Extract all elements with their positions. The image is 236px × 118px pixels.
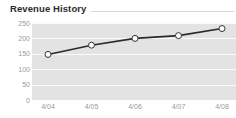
- x-axis-tick-label: 4/08: [215, 103, 229, 110]
- chart-canvas: 050100150200250 4/044/054/064/074/08: [0, 18, 236, 118]
- header-divider: [91, 11, 234, 12]
- chart-header: Revenue History: [0, 0, 236, 18]
- y-axis-tick-label: 100: [0, 66, 30, 73]
- data-point-marker[interactable]: [176, 33, 182, 39]
- y-axis-tick-label: 50: [0, 81, 30, 88]
- data-point-marker[interactable]: [89, 42, 95, 48]
- page-title: Revenue History: [0, 4, 86, 14]
- revenue-line-series: [32, 23, 236, 100]
- y-axis-tick-label: 200: [0, 35, 30, 42]
- data-point-marker[interactable]: [132, 35, 138, 41]
- data-point-marker[interactable]: [45, 51, 51, 57]
- y-axis-tick-label: 150: [0, 50, 30, 57]
- y-axis-tick-label: 250: [0, 20, 30, 27]
- plot-area: [32, 23, 236, 100]
- revenue-history-widget: Revenue History 050100150200250 4/044/05…: [0, 0, 236, 118]
- x-axis-tick-label: 4/06: [128, 103, 142, 110]
- x-axis: 4/044/054/064/074/08: [32, 103, 236, 117]
- x-axis-tick-label: 4/04: [41, 103, 55, 110]
- y-axis: 050100150200250: [0, 23, 30, 100]
- y-axis-tick-label: 0: [0, 97, 30, 104]
- x-axis-tick-label: 4/07: [172, 103, 186, 110]
- data-point-marker[interactable]: [219, 26, 225, 32]
- x-axis-tick-label: 4/05: [85, 103, 99, 110]
